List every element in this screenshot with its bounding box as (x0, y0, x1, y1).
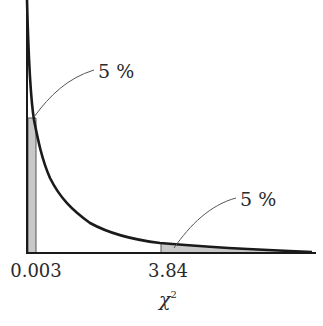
x-axis-title-superscript: 2 (171, 289, 177, 300)
density-curve (27, 0, 312, 252)
upper-tail-percent-label: 5 % (240, 188, 276, 210)
lower-tail-shaded-region (28, 118, 36, 253)
x-axis-title: χ2 (157, 288, 177, 310)
chart-canvas: 5 % 5 % 0.003 3.84 χ2 (0, 0, 323, 326)
tick-label-upper-critical: 3.84 (148, 260, 188, 281)
lower-callout-leader-line (34, 70, 94, 117)
tick-label-lower-critical: 0.003 (10, 260, 62, 281)
upper-callout-leader-line (174, 198, 236, 248)
chi-square-figure: 5 % 5 % 0.003 3.84 χ2 (0, 0, 323, 326)
lower-tail-percent-label: 5 % (98, 60, 134, 82)
